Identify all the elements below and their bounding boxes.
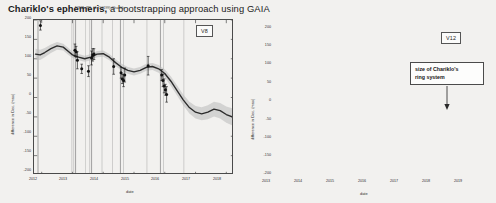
right-y-axis-label: difference in Dec. (mas) (250, 99, 255, 140)
left-xtick-4: 2016 (147, 177, 163, 181)
left-ytick-5: -50 (14, 111, 31, 115)
slide-root: Chariklo's ephemeris, a bootstrapping ap… (0, 0, 496, 203)
left-version-badge: V8 (196, 25, 213, 37)
left-ytick-8: -200 (14, 168, 31, 172)
left-ytick-4: 0 (14, 92, 31, 96)
left-ytick-3: 50 (14, 73, 31, 77)
right-ytick-4: 0 (254, 98, 271, 102)
left-x-axis-label: date (126, 189, 134, 194)
left-xtick-0: 2012 (25, 177, 41, 181)
right-ytick-6: -100 (254, 135, 271, 139)
left-ytick-2: 100 (14, 54, 31, 58)
right-xtick-5: 2018 (418, 179, 434, 183)
left-y-axis-label: difference in Dec. (mas) (10, 94, 15, 135)
right-tick-labels: 200 150 100 50 0 -50 -100 -150 -200 2013… (240, 0, 496, 203)
right-xtick-2: 2015 (322, 179, 338, 183)
ring-size-annotation: size of Chariklo's ring system (410, 62, 484, 85)
right-xtick-4: 2017 (386, 179, 402, 183)
right-ytick-8: -200 (254, 171, 271, 175)
left-panel-title: NIMA-JPL #1 (10199) Chariklo (75, 6, 125, 10)
left-xtick-2: 2014 (86, 177, 102, 181)
right-xtick-3: 2016 (354, 179, 370, 183)
left-xtick-6: 2018 (209, 177, 225, 181)
left-ytick-7: -150 (14, 149, 31, 153)
left-xtick-3: 2015 (117, 177, 133, 181)
right-x-axis-label: date (360, 191, 368, 196)
panel-left: NIMA-JPL #1 (10199) Chariklo 200 150 100… (0, 0, 248, 203)
left-ytick-0: 200 (14, 16, 31, 20)
right-xtick-1: 2014 (290, 179, 306, 183)
left-ytick-6: -100 (14, 130, 31, 134)
right-ytick-7: -150 (254, 153, 271, 157)
left-plot-area (33, 19, 233, 174)
right-ytick-3: 50 (254, 80, 271, 84)
left-plot-svg (34, 20, 233, 174)
panel-right: 200 150 100 50 0 -50 -100 -150 -200 2013… (240, 0, 496, 203)
left-xtick-1: 2013 (55, 177, 71, 181)
right-ytick-0: 200 (254, 25, 271, 29)
right-ytick-1: 150 (254, 43, 271, 47)
right-ytick-2: 100 (254, 61, 271, 65)
right-xtick-6: 2019 (450, 179, 466, 183)
left-ytick-1: 150 (14, 35, 31, 39)
right-xtick-0: 2013 (258, 179, 274, 183)
right-ytick-5: -50 (254, 117, 271, 121)
right-version-badge: V12 (441, 32, 461, 44)
left-xtick-5: 2017 (178, 177, 194, 181)
